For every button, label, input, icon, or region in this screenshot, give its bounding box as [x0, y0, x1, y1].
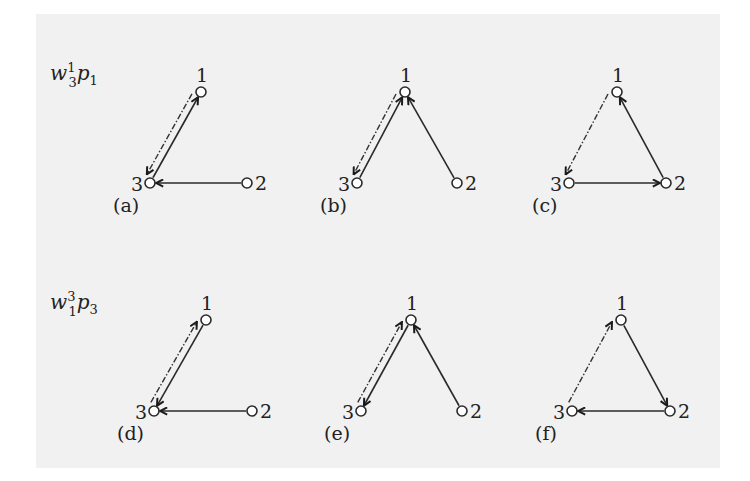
solid-edge-2-to-1 [620, 97, 663, 177]
dashed-edge-1-to-3 [354, 94, 396, 174]
node-3 [145, 178, 155, 188]
panel-caption-f: (f) [535, 422, 557, 444]
panel-caption-a: (a) [113, 194, 139, 216]
node-2 [242, 178, 252, 188]
node-label-1: 1 [201, 292, 213, 314]
solid-edge-3-to-1 [360, 97, 402, 177]
dashed-edge-3-to-1 [569, 322, 612, 402]
node-2 [661, 178, 671, 188]
node-2 [665, 406, 675, 416]
panel-c: 123(c) [532, 64, 686, 216]
node-label-1: 1 [616, 292, 628, 314]
solid-edge-2-to-1 [414, 325, 459, 406]
dashed-edge-3-to-1 [358, 322, 402, 402]
dashed-edge-1-to-3 [147, 94, 192, 175]
node-1 [196, 87, 206, 97]
node-label-3: 3 [338, 173, 350, 195]
node-label-1: 1 [196, 64, 208, 86]
solid-edge-3-to-1 [153, 97, 198, 178]
panel-caption-d: (d) [117, 422, 144, 444]
solid-edge-1-to-2 [624, 325, 667, 405]
node-3 [352, 178, 362, 188]
panel-caption-b: (b) [320, 194, 347, 216]
directed-graph-figure: w13p1 w31p3 123(a)123(b)123(c)123(d)123(… [0, 0, 750, 481]
node-2 [247, 406, 257, 416]
node-label-2: 2 [678, 400, 690, 422]
node-label-3: 3 [550, 173, 562, 195]
row-label-top: w13p1 [50, 60, 98, 90]
node-1 [612, 87, 622, 97]
node-label-1: 1 [406, 292, 418, 314]
node-label-3: 3 [135, 401, 147, 423]
panel-a: 123(a) [113, 64, 267, 216]
panel-b: 123(b) [320, 64, 477, 216]
node-1 [201, 315, 211, 325]
node-label-2: 2 [674, 172, 686, 194]
node-label-3: 3 [553, 401, 565, 423]
panel-f: 123(f) [535, 292, 690, 444]
dashed-edge-1-to-3 [566, 94, 608, 174]
node-label-1: 1 [612, 64, 624, 86]
panel-e: 123(e) [324, 292, 482, 444]
node-3 [564, 178, 574, 188]
node-label-3: 3 [342, 401, 354, 423]
node-1 [400, 87, 410, 97]
node-label-2: 2 [465, 172, 477, 194]
node-3 [149, 406, 159, 416]
node-label-2: 2 [260, 400, 272, 422]
node-3 [356, 406, 366, 416]
solid-edge-2-to-1 [408, 97, 454, 178]
dashed-edge-3-to-1 [151, 322, 197, 403]
panel-caption-e: (e) [324, 422, 350, 444]
node-label-2: 2 [255, 172, 267, 194]
solid-edge-1-to-3 [364, 325, 408, 405]
node-label-2: 2 [470, 400, 482, 422]
node-label-1: 1 [400, 64, 412, 86]
row-label-bottom: w31p3 [50, 289, 98, 319]
node-1 [406, 315, 416, 325]
node-1 [616, 315, 626, 325]
node-2 [452, 178, 462, 188]
panel-d: 123(d) [117, 292, 272, 444]
solid-edge-1-to-3 [157, 325, 203, 406]
node-2 [457, 406, 467, 416]
panel-caption-c: (c) [532, 194, 557, 216]
node-label-3: 3 [131, 173, 143, 195]
node-3 [567, 406, 577, 416]
